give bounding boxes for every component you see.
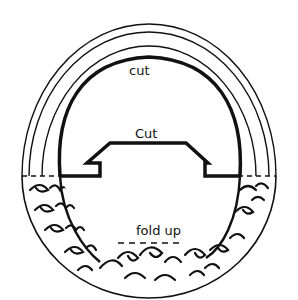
tab-cut-line bbox=[60, 143, 240, 176]
arch-cut-line bbox=[59, 57, 240, 176]
label-outer-cut: cut bbox=[129, 63, 149, 78]
label-inner-cut: Cut bbox=[135, 126, 157, 141]
inner-bottom-arc bbox=[60, 176, 240, 262]
template-diagram: cut Cut fold up bbox=[0, 0, 298, 300]
label-fold-up: fold up bbox=[136, 223, 181, 238]
